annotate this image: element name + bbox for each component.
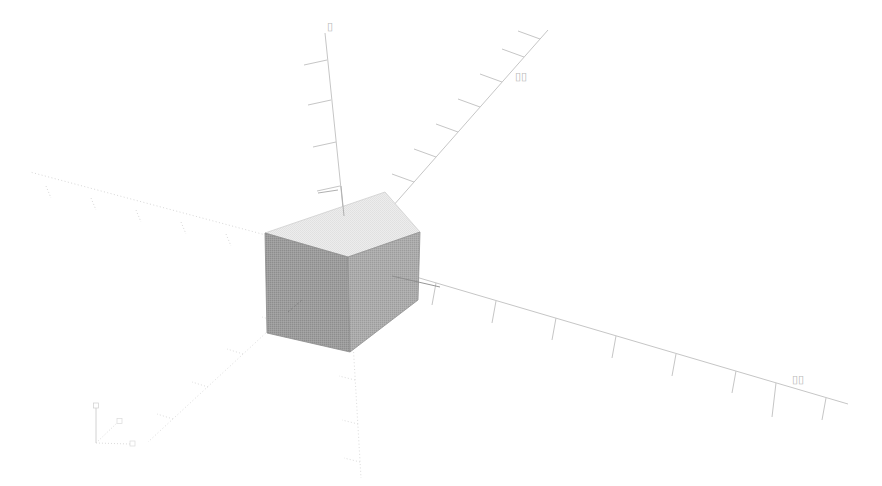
axis-x-positive-ticks — [432, 283, 826, 420]
axis-x-label: ▯▯ — [792, 373, 804, 385]
triad-z-label-box — [94, 403, 99, 408]
plot-canvas: ▯ ▯▯ — [0, 0, 882, 486]
axis-y-label: ▯▯ — [515, 70, 527, 82]
axes-figure: ▯ ▯▯ — [0, 0, 882, 486]
axis-x-positive: ▯▯ — [348, 257, 848, 420]
triad-x-axis — [96, 443, 130, 444]
triad-x-label-box — [130, 441, 135, 446]
cube — [265, 192, 420, 352]
triad-y-axis — [96, 423, 117, 443]
triad-y-label-box — [117, 419, 122, 424]
axes-behind-cube: ▯ ▯▯ — [30, 20, 848, 478]
orientation-triad — [94, 403, 136, 446]
axis-z-label: ▯ — [327, 20, 333, 32]
axis-z-positive-ticks — [304, 60, 344, 233]
axis-x-positive-line — [348, 257, 848, 404]
